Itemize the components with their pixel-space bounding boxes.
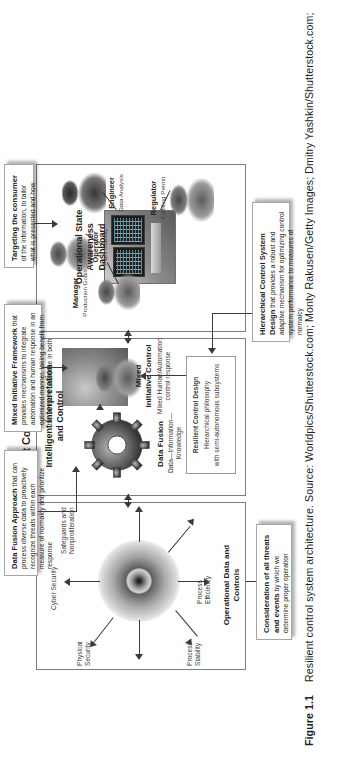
- callout-targeting-bold: Targeting the consumer: [10, 175, 19, 261]
- resilient-control-design-line1: Hierarchical philosophy: [203, 360, 211, 470]
- design-to-mixed-arrow: [140, 372, 146, 380]
- spoke-line-left: [139, 620, 140, 654]
- layer-link-arrow-left-2: [124, 338, 132, 344]
- callout-data-fusion-leader-v: [38, 511, 76, 512]
- figure-canvas: Resilient Control System Cyber Security …: [0, 0, 296, 762]
- fusion-to-mixed-arrow: [96, 404, 104, 410]
- callout-consideration-of-all-threats: Consideration of all threats and events …: [256, 524, 292, 640]
- layer-link-arrow-left-1: [124, 502, 132, 508]
- resilient-control-design-line2: with semi-autonomous subsystems: [213, 356, 221, 474]
- spoke-arrow-up: [64, 578, 70, 586]
- spoke-label-cyber-security: Cyber Security: [50, 567, 58, 610]
- callout-data-fusion-arrow: [72, 466, 80, 472]
- mixed-initiative-control-sublabel: Mixed Human/Automation control response: [156, 336, 172, 416]
- callout-data-fusion-leader-h: [76, 472, 77, 512]
- spoke-line-up: [70, 581, 100, 582]
- callout-mixed-initiative-arrow: [62, 364, 68, 372]
- spoke-label-physical-security: Physical Security: [76, 641, 92, 666]
- figure-caption: Figure 1.1Resilient control system archi…: [302, 16, 316, 746]
- layer-link-arrow-right-2: [124, 330, 132, 336]
- spoke-label-process-stability: Process Stability: [186, 642, 202, 666]
- dashboard-keyboard: [151, 223, 161, 273]
- spoke-arrow-left: [135, 654, 143, 660]
- callout-mixed-initiative-leader-v: [42, 367, 64, 368]
- callout-targeting-rest: of the information, to tailor what is pr…: [20, 183, 36, 261]
- dashboard-title-text: Operational State Awareness Dashboard: [74, 210, 107, 285]
- callout-hierarchical-leader-h: [212, 314, 213, 348]
- callout-hierarchical-arrow: [208, 348, 216, 354]
- callout-consideration-leader: [246, 581, 256, 582]
- spoke-arrow-right: [135, 506, 143, 512]
- data-fusion-label: Data Fusion: [156, 406, 166, 482]
- callout-targeting-leader-v: [34, 223, 54, 224]
- threat-burst-core: [126, 568, 152, 594]
- callout-targeting-the-consumer: Targeting the consumer of the informatio…: [4, 164, 34, 268]
- layer-link-arrow-right-1: [124, 494, 132, 500]
- spoke-label-safeguards-nonproliferation: Safeguards and Nonproliferation: [60, 507, 76, 554]
- rotated-book-page: Resilient Control System Cyber Security …: [0, 0, 354, 762]
- callout-mixed-initiative-framework: Mixed Initiative Framework that provides…: [4, 304, 42, 432]
- callout-targeting-text: Targeting the consumer of the informatio…: [10, 171, 38, 261]
- operational-data-and-controls-title-line1: Operational Data and: [222, 520, 232, 650]
- operational-state-awareness-dashboard-title: Operational State Awareness Dashboard: [74, 204, 108, 290]
- callout-hierarchical-text: Hierarchical Control System Design that …: [258, 209, 304, 335]
- callout-mixed-initiative-bold: Mixed Initiative Framework: [10, 328, 19, 425]
- figure-caption-number: Figure 1.1: [303, 695, 315, 746]
- callout-mixed-initiative-text: Mixed Initiative Framework that provides…: [10, 311, 55, 425]
- stakeholder-engineer-detail: Data Analysis: [117, 164, 124, 222]
- callout-consideration-text: Consideration of all threats and events …: [262, 531, 291, 633]
- resilient-control-design-title: Resilient Control Design: [192, 360, 200, 470]
- callout-data-fusion-text: Data Fusion Approach that can process di…: [10, 457, 55, 569]
- stakeholder-regulator-role: Regulator: [150, 168, 159, 228]
- callout-hierarchical-control-system-design: Hierarchical Control System Design that …: [252, 202, 290, 342]
- spoke-label-process-efficiency: Process Efficiency: [196, 576, 212, 604]
- callout-data-fusion-approach: Data Fusion Approach that can process di…: [4, 450, 38, 576]
- callout-targeting-arrow: [52, 220, 58, 228]
- data-fusion-gear: [82, 410, 152, 480]
- stakeholder-regulator: Regulator Fulfilling Permit: [150, 168, 166, 228]
- design-to-mixed-line: [146, 375, 186, 376]
- callout-data-fusion-bold: Data Fusion Approach: [10, 488, 19, 569]
- regulator-silhouette: [170, 176, 214, 224]
- callout-hierarchical-leader-v: [212, 313, 252, 314]
- stakeholder-engineer-role: Engineer: [108, 164, 117, 222]
- operational-data-and-controls-title-line2: Controls: [232, 520, 242, 650]
- stakeholder-engineer: Engineer Data Analysis: [108, 164, 124, 222]
- figure-caption-text: Resilient control system architecture. S…: [303, 13, 315, 682]
- spoke-line-right: [139, 512, 140, 542]
